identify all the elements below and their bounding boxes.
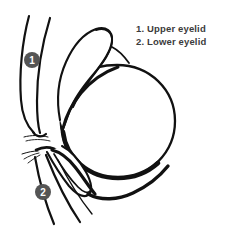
marker-2-label: 2 <box>40 187 46 198</box>
legend: 1. Upper eyelid 2. Lower eyelid <box>136 23 224 48</box>
eyelid-anatomy-figure: 1 2 1. Upper eyelid 2. Lower eyelid <box>0 0 226 236</box>
legend-item-lower-eyelid: 2. Lower eyelid <box>136 36 224 49</box>
legend-item-upper-eyelid-number: 1. <box>136 23 144 34</box>
marker-1-label: 1 <box>29 55 35 66</box>
legend-item-lower-eyelid-number: 2. <box>136 36 144 47</box>
marker-2: 2 <box>35 184 51 200</box>
legend-item-upper-eyelid-label: Upper eyelid <box>147 23 206 34</box>
legend-item-lower-eyelid-label: Lower eyelid <box>147 36 206 47</box>
marker-1: 1 <box>24 52 40 68</box>
legend-item-upper-eyelid: 1. Upper eyelid <box>136 23 224 36</box>
